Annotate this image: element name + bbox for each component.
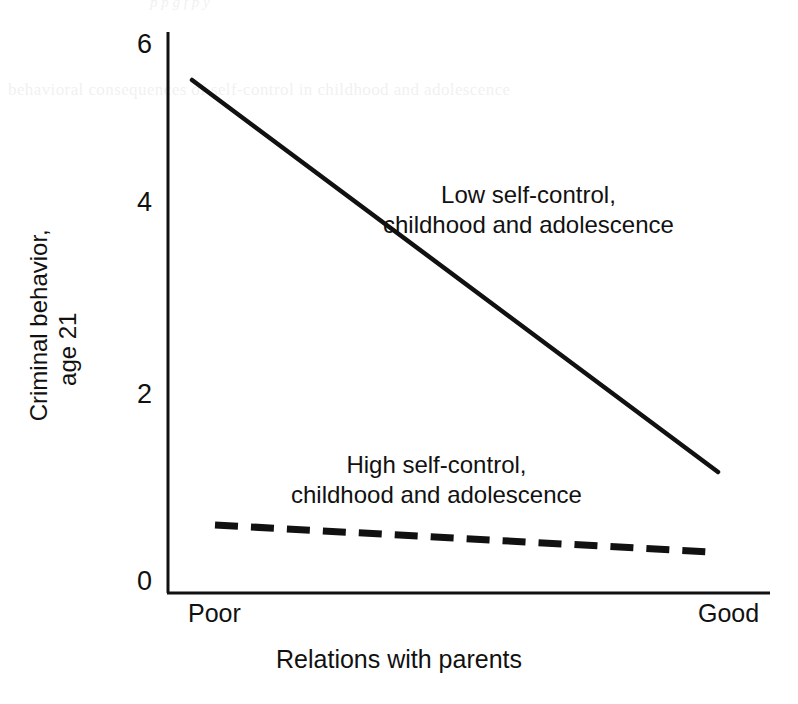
y-tick-labels: 6 4 2 0 <box>108 0 152 704</box>
annotation-low-line2: childhood and adolescence <box>383 210 674 240</box>
y-tick-label-4: 4 <box>112 189 152 216</box>
annotation-high-line1: High self-control, <box>291 450 582 480</box>
annotation-high-self-control: High self-control, childhood and adolesc… <box>291 450 582 510</box>
x-tick-label-poor: Poor <box>188 601 241 626</box>
series-line-low-self-control <box>192 80 718 472</box>
y-axis-title-line2: age 21 <box>53 175 82 523</box>
x-axis-title: Relations with parents <box>0 645 798 674</box>
annotation-high-line2: childhood and adolescence <box>291 480 582 510</box>
series-line-high-self-control <box>215 525 710 552</box>
y-tick-label-2: 2 <box>112 381 152 408</box>
y-tick-label-6: 6 <box>112 31 152 58</box>
x-tick-label-good: Good <box>698 601 759 626</box>
chart-figure: p p g f p y behavioral consequences of s… <box>0 0 798 704</box>
annotation-low-self-control: Low self-control, childhood and adolesce… <box>383 180 674 240</box>
y-axis-title: Criminal behavior, age 21 <box>24 175 83 475</box>
annotation-low-line1: Low self-control, <box>383 180 674 210</box>
y-tick-label-0: 0 <box>112 568 152 595</box>
y-axis-title-line1: Criminal behavior, <box>24 175 53 475</box>
